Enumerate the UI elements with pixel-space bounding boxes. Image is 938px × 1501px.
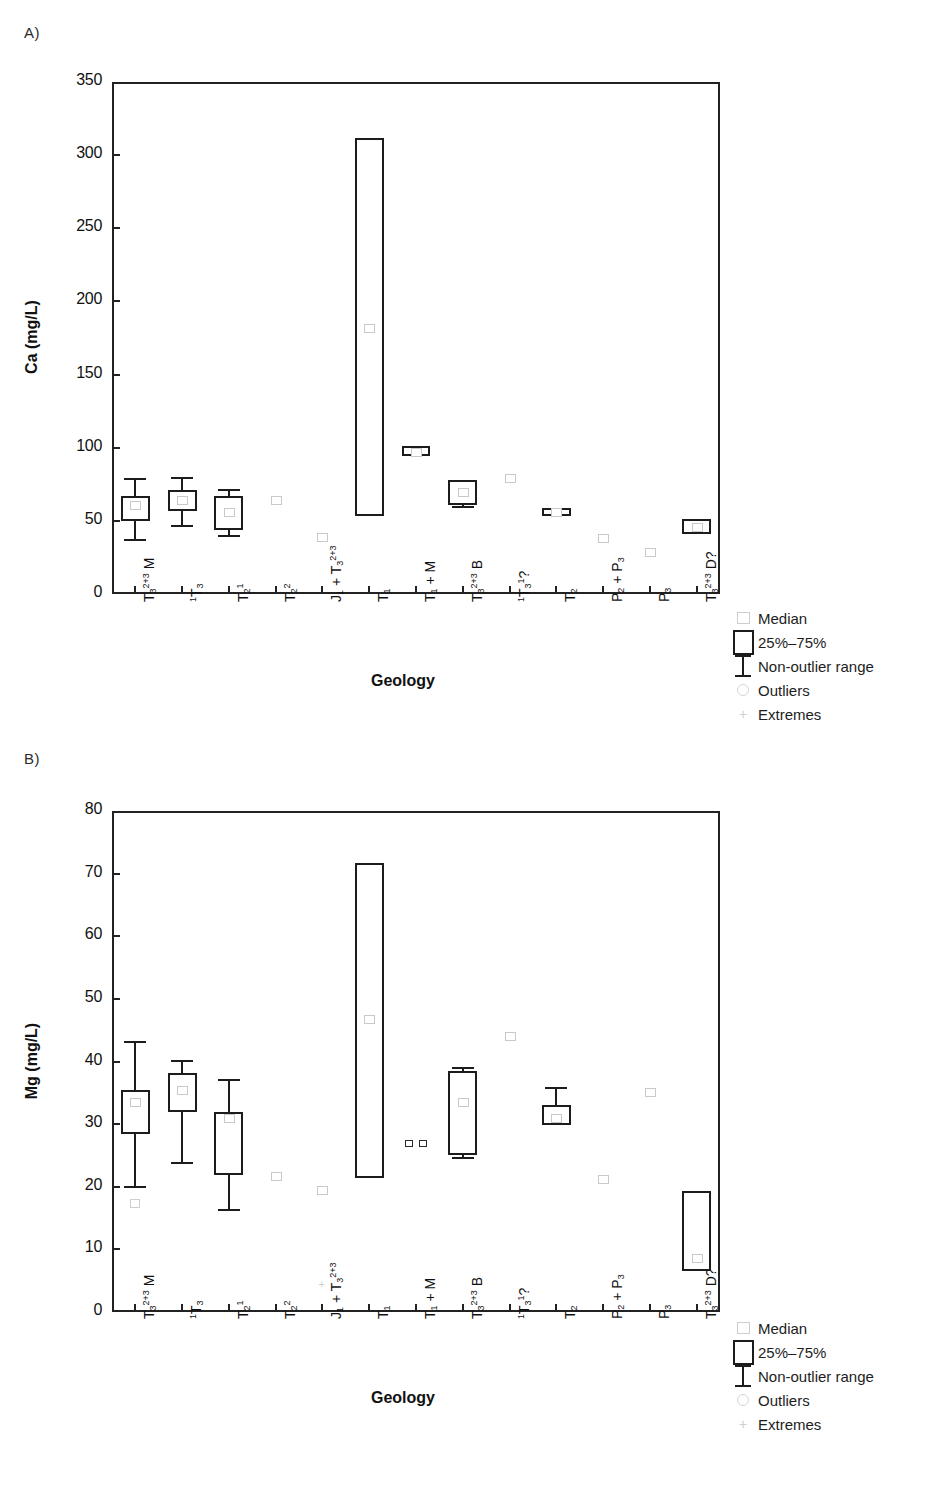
whisker-cap-upper bbox=[218, 489, 240, 491]
x-axis-tick bbox=[462, 586, 464, 594]
x-axis-category-label: T32+3 D? bbox=[704, 551, 720, 602]
whisker-cap-lower bbox=[171, 1162, 193, 1164]
panel-a: A) 050100150200250300350Ca (mg/L)T32+3 M… bbox=[0, 0, 938, 750]
median-marker bbox=[505, 1032, 516, 1041]
median-marker bbox=[598, 1175, 609, 1184]
y-axis-tick bbox=[112, 154, 120, 156]
y-axis-tick bbox=[112, 520, 120, 522]
y-axis-tick bbox=[112, 1123, 120, 1125]
y-axis-tick bbox=[112, 447, 120, 449]
median-marker bbox=[271, 496, 282, 505]
legend-item-label: Extremes bbox=[758, 1416, 821, 1433]
legend-item-label: Non-outlier range bbox=[758, 1368, 874, 1385]
x-axis-title: Geology bbox=[371, 1389, 435, 1407]
legend-b: Median25%–75%Non-outlier rangeOutliers+E… bbox=[728, 1316, 874, 1436]
whisker-icon bbox=[735, 655, 751, 677]
x-axis-category-label: 1T31? bbox=[517, 1288, 533, 1319]
legend-item-label: 25%–75% bbox=[758, 634, 826, 651]
legend-item: Outliers bbox=[728, 678, 874, 702]
x-axis-category-label: T1 + M bbox=[423, 1278, 439, 1319]
y-axis-tick-label: 50 bbox=[56, 510, 102, 528]
legend-item-label: Outliers bbox=[758, 1392, 810, 1409]
x-axis-tick bbox=[649, 586, 651, 594]
x-axis-title: Geology bbox=[371, 672, 435, 690]
median-square-icon bbox=[737, 1322, 750, 1334]
x-axis-tick bbox=[509, 586, 511, 594]
whisker-lower bbox=[134, 521, 136, 541]
median-marker bbox=[458, 488, 469, 497]
box-plot-box bbox=[448, 1071, 477, 1156]
legend-item: +Extremes bbox=[728, 702, 874, 726]
median-marker bbox=[271, 1172, 282, 1181]
y-axis-tick bbox=[112, 300, 120, 302]
legend-item: Non-outlier range bbox=[728, 1364, 874, 1388]
median-marker bbox=[505, 474, 516, 483]
whisker-cap-lower bbox=[124, 1186, 146, 1188]
whisker-cap-upper bbox=[124, 1041, 146, 1043]
whisker-upper bbox=[134, 1041, 136, 1089]
y-axis-title: Mg (mg/L) bbox=[23, 991, 41, 1131]
whisker-cap-lower bbox=[171, 525, 193, 527]
y-axis-tick bbox=[112, 998, 120, 1000]
x-axis-category-label: T1 bbox=[376, 588, 392, 602]
whisker-cap-upper bbox=[452, 1067, 474, 1069]
y-axis-tick-label: 40 bbox=[56, 1051, 102, 1069]
y-axis-tick bbox=[112, 374, 120, 376]
y-axis-tick bbox=[112, 1186, 120, 1188]
x-axis-category-label: 1T3 bbox=[189, 1300, 205, 1319]
x-axis-category-label: T2 bbox=[563, 588, 579, 602]
box-icon bbox=[733, 630, 754, 655]
x-axis-tick bbox=[321, 1304, 323, 1312]
y-axis-tick-label: 30 bbox=[56, 1113, 102, 1131]
whisker-cap-upper bbox=[545, 1087, 567, 1089]
outlier-circle-icon bbox=[737, 684, 749, 696]
y-axis-tick-label: 10 bbox=[56, 1238, 102, 1256]
x-axis-tick bbox=[462, 1304, 464, 1312]
x-axis-tick bbox=[602, 586, 604, 594]
extreme-cross-icon: + bbox=[739, 706, 747, 722]
median-marker bbox=[364, 1015, 375, 1024]
median-marker bbox=[130, 1098, 141, 1107]
whisker-cap-lower bbox=[218, 535, 240, 537]
legend-item-label: Extremes bbox=[758, 706, 821, 723]
y-axis-tick-label: 300 bbox=[56, 144, 102, 162]
median-marker bbox=[692, 1254, 703, 1263]
x-axis-category-label: T1 bbox=[376, 1305, 392, 1319]
x-axis-tick bbox=[696, 1304, 698, 1312]
median-square-icon bbox=[737, 612, 750, 624]
median-marker bbox=[130, 501, 141, 510]
median-marker bbox=[317, 1186, 328, 1195]
plot-frame bbox=[112, 82, 720, 594]
legend-item-label: 25%–75% bbox=[758, 1344, 826, 1361]
panel-a-letter: A) bbox=[24, 24, 40, 41]
y-axis-tick-label: 350 bbox=[56, 71, 102, 89]
x-axis-tick bbox=[602, 1304, 604, 1312]
y-axis-tick-label: 150 bbox=[56, 364, 102, 382]
x-axis-tick bbox=[275, 586, 277, 594]
x-axis-category-label: T32+3 B bbox=[470, 1277, 486, 1319]
outlier-circle-icon bbox=[737, 1394, 749, 1406]
median-marker bbox=[177, 1086, 188, 1095]
x-axis-tick bbox=[275, 1304, 277, 1312]
legend-item: Median bbox=[728, 1316, 874, 1340]
x-axis-tick bbox=[181, 1304, 183, 1312]
outlier-marker bbox=[130, 1199, 140, 1208]
median-marker bbox=[692, 523, 703, 532]
whisker-icon bbox=[735, 1365, 751, 1387]
whisker-lower bbox=[228, 1175, 230, 1211]
x-axis-category-label: T32+3 B bbox=[470, 560, 486, 602]
whisker-cap-lower bbox=[452, 506, 474, 508]
x-axis-tick bbox=[134, 586, 136, 594]
whisker-lower bbox=[181, 1112, 183, 1164]
whisker-upper bbox=[228, 1079, 230, 1112]
whisker-cap-upper bbox=[124, 478, 146, 480]
x-axis-category-label: P2 + P3 bbox=[610, 557, 626, 602]
median-marker bbox=[551, 1114, 562, 1123]
x-axis-category-label: 1T3 bbox=[189, 583, 205, 602]
legend-item: Non-outlier range bbox=[728, 654, 874, 678]
whisker-cap-upper bbox=[171, 477, 193, 479]
x-axis-tick bbox=[415, 586, 417, 594]
y-axis-tick-label: 100 bbox=[56, 437, 102, 455]
y-axis-tick-label: 20 bbox=[56, 1176, 102, 1194]
x-axis-tick bbox=[368, 1304, 370, 1312]
